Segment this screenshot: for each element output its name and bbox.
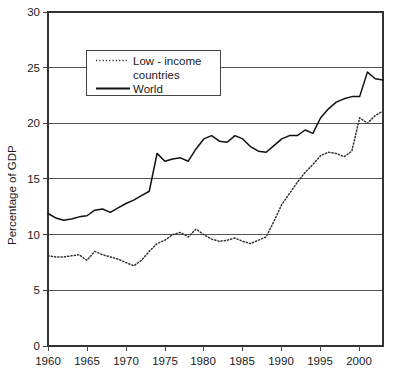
x-tick-marks (48, 346, 359, 351)
legend-label-low-income-line1: Low - income (133, 55, 201, 67)
y-label-5: 5 (34, 284, 40, 296)
legend-label-world: World (133, 83, 163, 95)
chart-container: 30 25 20 15 10 5 0 1960 1965 1970 1975 (0, 0, 396, 383)
y-label-30: 30 (27, 6, 40, 18)
y-label-20: 20 (27, 117, 40, 129)
y-label-25: 25 (27, 62, 40, 74)
x-label-1975: 1975 (152, 355, 178, 367)
legend-label-low-income-line2: countries (133, 69, 180, 81)
x-label-1990: 1990 (268, 355, 294, 367)
y-tick-marks (43, 12, 48, 346)
y-label-0: 0 (34, 340, 40, 352)
grid-lines (48, 68, 383, 291)
x-label-1960: 1960 (35, 355, 61, 367)
legend: Low - income countries World (86, 50, 220, 95)
series-line-low-income-countries (48, 111, 383, 266)
x-label-1980: 1980 (190, 355, 216, 367)
x-label-2000: 2000 (346, 355, 372, 367)
x-label-1965: 1965 (74, 355, 100, 367)
line-chart: 30 25 20 15 10 5 0 1960 1965 1970 1975 (0, 0, 396, 383)
y-label-15: 15 (27, 173, 40, 185)
x-label-1995: 1995 (307, 355, 333, 367)
y-label-10: 10 (27, 229, 40, 241)
x-label-1970: 1970 (113, 355, 139, 367)
y-tick-labels: 30 25 20 15 10 5 0 (27, 6, 40, 352)
y-axis-title: Percentage of GDP (6, 145, 18, 245)
x-label-1985: 1985 (229, 355, 255, 367)
x-tick-labels: 1960 1965 1970 1975 1980 1985 1990 1995 … (35, 355, 372, 367)
